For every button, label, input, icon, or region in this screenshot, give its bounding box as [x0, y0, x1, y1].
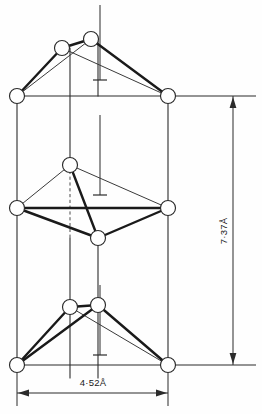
- atom-mid-upper-inner: [63, 158, 78, 173]
- atom-mid-lower-inner: [91, 231, 106, 246]
- bond-thin-mid-1: [17, 165, 70, 208]
- horizontal-dim-arrow-left: [18, 390, 29, 397]
- bond-thick-bot-left: [17, 307, 70, 365]
- atom-top-inner-left: [55, 41, 70, 56]
- unit-cell-edges: [17, 96, 168, 365]
- atom-bot-left-corner: [10, 358, 25, 373]
- atom-mid-right-corner: [161, 201, 176, 216]
- horizontal-dim-arrow-right: [156, 390, 167, 397]
- bond-thick-top-left: [17, 48, 62, 96]
- atom-mid-left-corner: [10, 201, 25, 216]
- bond-thick-bot-cross: [17, 305, 98, 365]
- vertical-dimension-label: 7·37Å: [218, 217, 229, 244]
- crystal-structure-canvas: 7·37Å 4·52Å: [0, 0, 262, 414]
- crystal-structure-figure: 7·37Å 4·52Å: [0, 0, 262, 414]
- vertical-dim-arrow-top: [230, 97, 237, 108]
- horizontal-dimension-label: 4·52Å: [80, 377, 107, 388]
- bond-thick-mid-right: [98, 208, 168, 238]
- atom-top-left-corner: [10, 89, 25, 104]
- atom-top-inner-right: [84, 32, 99, 47]
- atom-bot-inner-left: [63, 300, 78, 315]
- bond-thick-top-right: [91, 39, 168, 96]
- horizontal-dimension-annotation: 4·52Å: [17, 373, 168, 406]
- atom-bot-inner-right: [91, 298, 106, 313]
- vertical-dimension-annotation: 7·37Å: [176, 96, 256, 365]
- bonds-thick-group: [17, 39, 168, 365]
- atom-bot-right-corner: [161, 358, 176, 373]
- bond-thick-mid-left: [17, 208, 98, 238]
- bonds-thin-group: [17, 39, 168, 365]
- bond-thin-top-1: [62, 48, 168, 96]
- bond-thick-bot-right: [98, 305, 168, 365]
- atom-top-right-corner: [161, 89, 176, 104]
- vertical-dim-arrow-bottom: [230, 353, 237, 364]
